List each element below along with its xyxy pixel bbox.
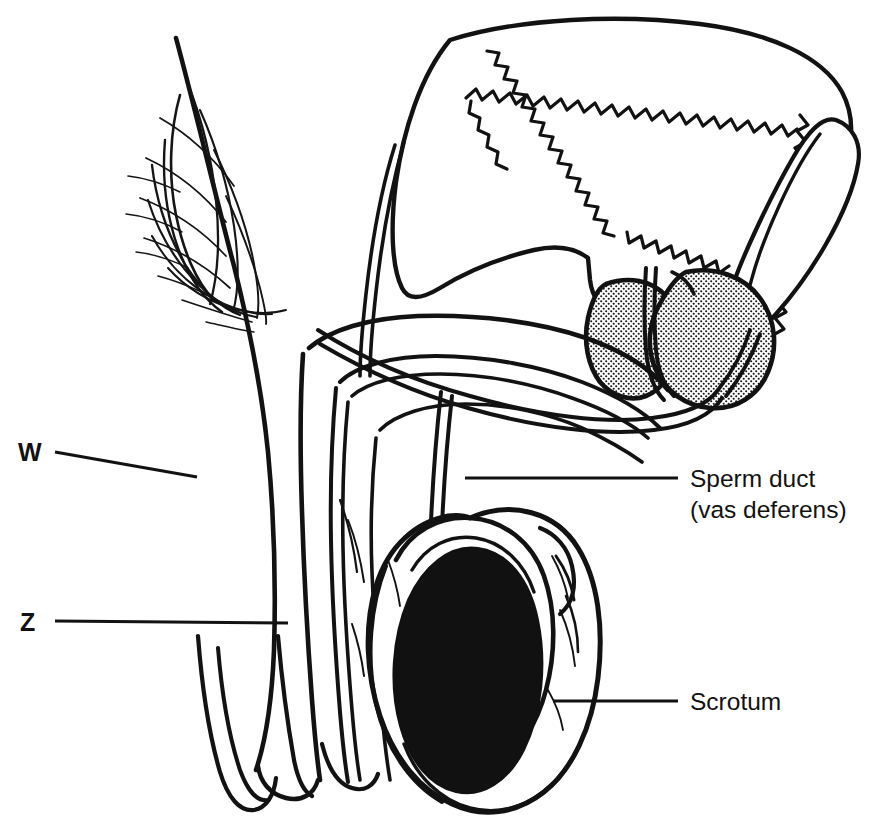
label-z: Z <box>20 608 35 636</box>
label-scrotum: Scrotum <box>690 688 781 715</box>
male-reproductive-system-diagram: W Z Sperm duct (vas deferens) Scrotum <box>0 0 880 833</box>
label-w: W <box>18 438 42 466</box>
leader-line-z <box>55 621 288 623</box>
label-sperm-duct-line1: Sperm duct <box>690 465 815 492</box>
testis <box>393 548 542 794</box>
label-sperm-duct-line2: (vas deferens) <box>690 496 847 523</box>
diagram-canvas: W Z Sperm duct (vas deferens) Scrotum <box>0 0 880 833</box>
